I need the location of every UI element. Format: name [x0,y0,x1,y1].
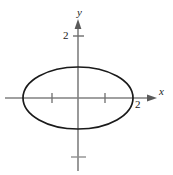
x-axis-label: x [159,86,164,97]
coordinate-plane-svg [0,0,173,175]
x-axis-arrowhead [147,95,157,102]
ellipse-graph-figure: y x 2 2 [0,0,173,175]
x-axis-tick-label-2: 2 [135,99,141,110]
y-axis-arrowhead [75,19,82,29]
y-axis-tick-label-2: 2 [63,30,69,41]
y-axis-label: y [77,7,82,18]
